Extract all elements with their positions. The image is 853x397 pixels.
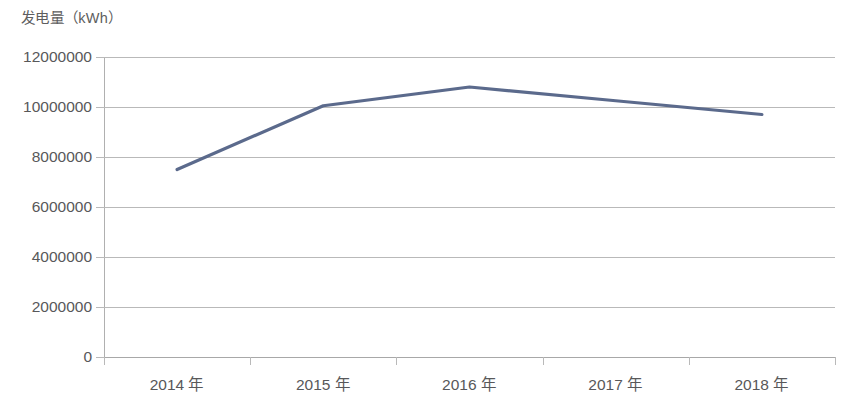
y-axis-tick [96,207,105,208]
y-axis-tick [96,107,105,108]
series-line-power-generation [0,0,853,397]
series-polyline [177,87,762,170]
y-axis-tick [96,307,105,308]
line-chart: 发电量（kWh） 1200000010000000800000060000004… [0,0,853,397]
y-axis-tick [96,357,105,358]
y-axis-tick [96,157,105,158]
y-axis-tick [96,57,105,58]
y-axis-tick [96,257,105,258]
